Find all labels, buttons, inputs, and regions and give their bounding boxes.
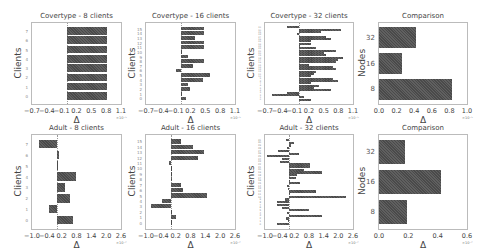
- bar: [288, 220, 289, 222]
- y-tick-label: 4: [25, 57, 28, 62]
- x-tick-label: −0.4: [153, 107, 169, 115]
- y-tick-label: 4: [139, 199, 142, 204]
- bar: [171, 210, 172, 214]
- x-tick-label: 1.1: [348, 107, 358, 115]
- x-axis-label: Δ: [264, 240, 354, 250]
- x-tick-label: 0.8: [101, 107, 111, 115]
- y-tick-label: 2: [25, 75, 28, 80]
- bar: [277, 201, 289, 203]
- x-tick-label: 2.0: [333, 232, 343, 240]
- bar: [171, 166, 172, 170]
- bar: [57, 151, 59, 160]
- bar: [299, 59, 338, 61]
- bar: [299, 57, 343, 59]
- chart-title: Covertype - 32 clients: [264, 12, 354, 20]
- bar: [277, 204, 289, 206]
- bar: [299, 54, 326, 56]
- bar: [289, 180, 290, 182]
- y-tick-label: 11: [258, 193, 261, 196]
- bar: [299, 50, 336, 52]
- y-tick-label: 2: [259, 217, 261, 220]
- x-tick-label: −1.0: [24, 232, 40, 240]
- y-tick-label: 19: [258, 54, 261, 56]
- y-tick-label: 4: [139, 78, 142, 83]
- x-tick-label: 0.6: [462, 232, 472, 240]
- bar: [49, 205, 56, 214]
- x-tick-label: 0.2: [391, 107, 401, 115]
- y-tick-label: 8: [371, 208, 375, 216]
- y-tick-label: 30: [258, 29, 261, 31]
- y-axis-label: Clients: [13, 161, 23, 201]
- bar: [287, 212, 289, 214]
- x-tick-label: 2.6: [348, 232, 358, 240]
- bar: [67, 27, 108, 34]
- y-tick-label: 26: [258, 38, 261, 40]
- bar: [181, 78, 203, 82]
- bar: [171, 145, 193, 149]
- bar: [171, 183, 181, 187]
- y-tick-label: 20: [258, 52, 261, 54]
- y-tick-label: 22: [258, 163, 261, 166]
- x-tick-label: −0.7: [24, 107, 40, 115]
- y-tick-label: 27: [258, 36, 261, 38]
- bar: [289, 169, 304, 171]
- x-tick-label: −0.1: [54, 107, 70, 115]
- bar: [379, 200, 407, 224]
- y-axis-label: Clients: [127, 43, 137, 83]
- x-tick-label: 0.2: [71, 107, 81, 115]
- y-tick-label: 12: [258, 70, 261, 72]
- bar: [280, 161, 290, 163]
- y-tick-label: 9: [259, 198, 261, 201]
- y-tick-label: 15: [137, 139, 142, 144]
- bar: [299, 31, 321, 33]
- y-tick-label: 20: [258, 168, 261, 171]
- x-tick-label: 1.1: [230, 107, 240, 115]
- y-tick-label: 2: [260, 94, 261, 96]
- bar: [289, 190, 316, 192]
- y-tick-label: 7: [25, 29, 28, 34]
- bar: [379, 27, 416, 48]
- y-tick-label: 29: [258, 144, 261, 147]
- x-tick-label: 0.8: [333, 107, 343, 115]
- bar: [289, 142, 294, 144]
- y-tick-label: 12: [137, 156, 142, 161]
- bar: [299, 73, 314, 75]
- y-tick-label: 2: [139, 210, 142, 215]
- y-tick-label: 6: [260, 84, 261, 86]
- bar: [299, 29, 341, 31]
- bar: [171, 193, 207, 197]
- bar: [171, 172, 172, 176]
- y-tick-label: 5: [139, 73, 142, 78]
- y-tick-label: 8: [260, 80, 261, 82]
- y-tick-label: 5: [25, 164, 28, 169]
- y-tick-label: 25: [258, 40, 261, 42]
- x-tick-label: 0.4: [409, 107, 419, 115]
- bar: [289, 174, 296, 176]
- bar: [299, 99, 311, 101]
- plot-area: [264, 22, 354, 105]
- plot-area: [31, 134, 122, 230]
- y-tick-label: 22: [258, 47, 261, 49]
- y-tick-label: 15: [137, 27, 142, 32]
- x-tick-label: −0.4: [39, 107, 55, 115]
- y-tick-label: 7: [25, 142, 28, 147]
- x-axis-label: Δ: [378, 240, 468, 250]
- bar: [299, 89, 331, 91]
- bar: [289, 153, 299, 155]
- y-tick-label: 13: [258, 187, 261, 190]
- bar: [171, 150, 204, 154]
- x-tick-label: −0.7: [257, 107, 273, 115]
- x-tick-label: −1.0: [257, 232, 273, 240]
- y-tick-label: 16: [366, 60, 375, 68]
- bar: [286, 217, 290, 219]
- x-tick-label: 0.0: [374, 232, 384, 240]
- bar: [181, 31, 205, 35]
- y-tick-label: 18: [258, 57, 261, 59]
- bar: [67, 92, 108, 99]
- y-tick-label: 21: [258, 50, 261, 52]
- bar: [299, 43, 311, 45]
- y-tick-label: 9: [139, 55, 142, 60]
- y-tick-label: 32: [366, 148, 375, 156]
- x-tick-label: 0.6: [427, 107, 437, 115]
- x-tick-label: 0.8: [185, 232, 195, 240]
